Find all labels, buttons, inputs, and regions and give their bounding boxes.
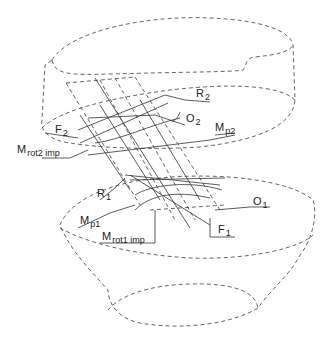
label-Mrot2imp: Mrot2 imp	[17, 144, 60, 155]
diagram-canvas	[0, 0, 331, 347]
label-O1: O1	[253, 196, 268, 207]
label-R1: R1	[97, 188, 111, 199]
upper-body-top-face	[52, 45, 293, 74]
label-R2: R2	[196, 88, 210, 99]
lower-body-mid-face	[60, 228, 313, 258]
label-F2: F2	[55, 124, 68, 135]
label-O2: O2	[186, 113, 201, 124]
label-F1: F1	[218, 224, 231, 235]
upper-body-outline	[42, 18, 295, 149]
force-lines	[78, 95, 235, 225]
label-Mrot1imp: Mrot1 imp	[102, 231, 145, 242]
label-Mp1: Mp1	[80, 215, 100, 226]
label-Mp2: Mp2	[215, 122, 235, 133]
lower-body-bottom-face	[108, 284, 258, 310]
upper-body-bottom-face	[42, 86, 295, 128]
label-leaders	[42, 95, 270, 243]
